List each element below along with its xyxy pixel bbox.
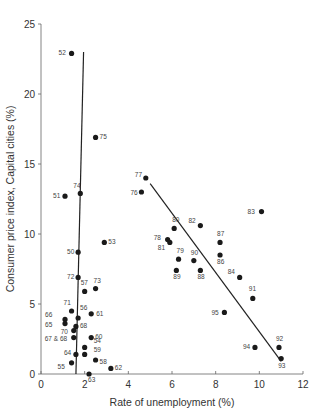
data-point <box>172 226 177 231</box>
data-point <box>167 240 172 245</box>
y-axis-label: Consumer price index, Capital cities (%) <box>4 106 16 293</box>
data-point-label: 61 <box>96 310 104 317</box>
data-point <box>250 296 255 301</box>
data-point <box>69 51 74 56</box>
data-point <box>143 175 148 180</box>
data-point-label: 65 <box>45 321 53 328</box>
data-point-label: 90 <box>191 249 199 256</box>
data-point-label: 73 <box>94 277 102 284</box>
data-point-label: 91 <box>249 285 257 292</box>
data-point <box>139 189 144 194</box>
data-point-label: 66 <box>45 311 53 318</box>
data-point-label: 79 <box>177 247 185 254</box>
data-point <box>82 289 87 294</box>
data-point <box>217 240 222 245</box>
data-point <box>279 356 284 361</box>
data-point-label: 71 <box>64 299 72 306</box>
data-point <box>252 345 257 350</box>
data-point-label: 89 <box>173 273 181 280</box>
data-point-label: 74 <box>73 182 81 189</box>
data-point <box>93 286 98 291</box>
data-point <box>71 335 76 340</box>
data-point <box>71 328 76 333</box>
chart-canvas: 0246810120510152025 52757451535072735771… <box>0 0 313 412</box>
data-point-label: 77 <box>135 171 143 178</box>
data-point-label: 51 <box>53 192 61 199</box>
data-point-label: 70 <box>61 328 69 335</box>
data-point <box>198 223 203 228</box>
data-point-label: 92 <box>276 335 284 342</box>
data-point <box>191 258 196 263</box>
data-point-label: 59 <box>94 346 102 353</box>
y-tick-label: 5 <box>29 299 35 310</box>
y-tick-label: 10 <box>24 229 36 240</box>
data-point <box>174 268 179 273</box>
data-point-label: 88 <box>197 273 205 280</box>
data-point <box>176 257 181 262</box>
x-tick-label: 2 <box>82 379 88 390</box>
data-point-label: 62 <box>115 364 123 371</box>
data-point-label: 64 <box>64 349 72 356</box>
x-tick-label: 8 <box>213 379 219 390</box>
x-tick-label: 6 <box>169 379 175 390</box>
data-point-label: 87 <box>217 230 225 237</box>
data-point-label: 83 <box>248 208 256 215</box>
data-point-label: 53 <box>108 238 116 245</box>
data-point <box>102 240 107 245</box>
data-point-label: 52 <box>59 49 67 56</box>
data-point <box>93 135 98 140</box>
y-tick-label: 25 <box>24 19 36 30</box>
data-point <box>222 310 227 315</box>
data-point <box>73 352 78 357</box>
data-point <box>259 209 264 214</box>
y-tick-label: 0 <box>29 369 35 380</box>
data-point <box>93 357 98 362</box>
data-point-label: 72 <box>67 273 75 280</box>
data-point-label: 57 <box>81 279 89 286</box>
data-point-label: 55 <box>58 363 66 370</box>
data-point <box>276 345 281 350</box>
y-tick-label: 20 <box>24 89 36 100</box>
data-point <box>198 268 203 273</box>
y-tick-label: 15 <box>24 159 36 170</box>
x-tick-label: 4 <box>126 379 132 390</box>
x-axis-label: Rate of unemployment (%) <box>110 396 235 408</box>
data-point <box>108 366 113 371</box>
scatter-chart: 0246810120510152025 52757451535072735771… <box>0 0 313 412</box>
data-point <box>237 275 242 280</box>
data-point <box>62 194 67 199</box>
data-point-label: 50 <box>67 248 75 255</box>
data-point-label: 56 <box>80 304 88 311</box>
data-point-label: 84 <box>228 268 236 275</box>
data-point <box>76 315 81 320</box>
data-point-label: 54 <box>94 337 102 344</box>
data-point <box>89 311 94 316</box>
data-point-label: 86 <box>217 258 225 265</box>
x-tick-label: 12 <box>297 379 309 390</box>
data-point-label: 78 <box>154 234 162 241</box>
data-point <box>78 191 83 196</box>
data-point-label: 94 <box>243 343 251 350</box>
data-point <box>62 321 67 326</box>
data-point-label: 76 <box>130 189 138 196</box>
data-point-label: 93 <box>278 362 286 369</box>
data-point-label: 95 <box>211 309 219 316</box>
data-point-label: 58 <box>100 358 108 365</box>
data-point-label: 63 <box>88 376 96 383</box>
data-point <box>76 250 81 255</box>
x-tick-label: 10 <box>254 379 266 390</box>
data-point-label: 81 <box>158 244 166 251</box>
x-tick-label: 0 <box>38 379 44 390</box>
data-points: 5275745153507273577161566665687067 & 686… <box>45 49 286 383</box>
data-point-label: 67 & 68 <box>45 335 68 342</box>
data-point-label: 80 <box>172 216 180 223</box>
data-point <box>82 345 87 350</box>
data-point-label: 82 <box>188 217 196 224</box>
data-point <box>82 352 87 357</box>
data-point <box>69 360 74 365</box>
data-point-label: 68 <box>80 322 88 329</box>
data-point-label: 75 <box>100 133 108 140</box>
data-point <box>217 252 222 257</box>
data-point <box>69 308 74 313</box>
